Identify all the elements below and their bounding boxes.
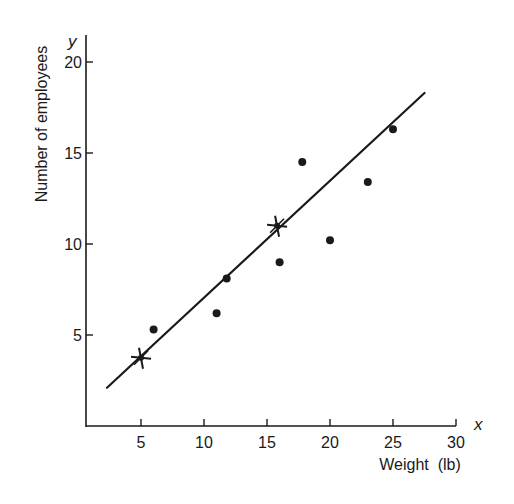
y-tick-label: 20 [64, 54, 82, 71]
x-axis-symbol: x [473, 415, 483, 434]
data-point-dot [223, 275, 231, 283]
x-axis-title: Weight (lb) [379, 456, 461, 473]
data-point-dot [276, 258, 284, 266]
x-tick-label: 25 [384, 434, 402, 451]
chart-canvas: 51015202530 5101520 Number of employees … [0, 0, 514, 504]
data-point-dot [364, 178, 372, 186]
y-tick-label: 10 [64, 236, 82, 253]
data-point-dot [389, 125, 397, 133]
y-axis-title: Number of employees [33, 46, 50, 203]
x-tick-label: 10 [195, 434, 213, 451]
data-point-dot [213, 309, 221, 317]
y-tick-label: 15 [64, 145, 82, 162]
y-ticks: 5101520 [64, 54, 93, 344]
data-point-dot [150, 326, 158, 334]
y-tick-label: 5 [73, 327, 82, 344]
regression-line [107, 93, 425, 388]
data-point-dot [298, 158, 306, 166]
x-tick-label: 20 [321, 434, 339, 451]
axes: 51015202530 5101520 [64, 35, 465, 451]
scatter-chart: 51015202530 5101520 Number of employees … [0, 0, 514, 504]
star-marker-icon [131, 348, 151, 369]
x-tick-label: 5 [137, 434, 146, 451]
regression-line-path [107, 93, 425, 388]
x-tick-label: 15 [258, 434, 276, 451]
data-point-dot [326, 236, 334, 244]
x-ticks: 51015202530 [137, 419, 465, 451]
x-tick-label: 30 [447, 434, 465, 451]
y-axis-symbol: y [67, 32, 78, 51]
star-marker-icon [267, 216, 287, 237]
